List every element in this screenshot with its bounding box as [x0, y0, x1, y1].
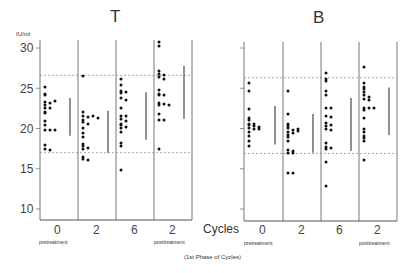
data-point — [292, 172, 295, 175]
data-point — [163, 119, 166, 122]
data-point — [158, 104, 161, 107]
data-point — [325, 107, 328, 110]
data-point — [158, 113, 161, 116]
data-point — [87, 147, 90, 150]
y-tick-30: 30 — [20, 41, 33, 55]
data-point — [248, 131, 251, 134]
data-point — [325, 94, 328, 97]
data-point — [325, 148, 328, 151]
x-tick-left-2b: 2 — [169, 223, 176, 237]
x-tick-right-2a: 2 — [298, 223, 305, 237]
data-point — [82, 148, 85, 151]
data-point — [158, 89, 161, 92]
data-point — [287, 113, 290, 116]
cycles-axis-label: Cycles — [203, 222, 239, 236]
y-tick-10: 10 — [20, 202, 33, 216]
data-point — [54, 129, 57, 132]
data-point — [44, 94, 47, 97]
data-point — [248, 90, 251, 93]
data-point — [325, 90, 328, 93]
data-point — [125, 120, 128, 123]
data-point — [248, 108, 251, 111]
data-point — [363, 128, 366, 131]
data-point — [258, 128, 261, 131]
data-point — [363, 98, 366, 101]
data-point — [330, 107, 333, 110]
data-point — [82, 127, 85, 130]
data-point — [44, 120, 47, 123]
data-point — [325, 185, 328, 188]
data-point — [120, 131, 123, 134]
x-sublabel-right-post: posttreatment — [359, 240, 390, 246]
data-point — [163, 94, 166, 97]
data-point — [82, 132, 85, 135]
data-point — [368, 96, 371, 99]
x-tick-right-0: 0 — [259, 223, 266, 237]
data-point — [363, 159, 366, 162]
data-point — [44, 101, 47, 104]
data-point — [325, 115, 328, 118]
data-point — [363, 109, 366, 112]
data-point — [292, 129, 295, 132]
data-point — [158, 119, 161, 122]
data-point — [158, 76, 161, 79]
data-point — [373, 107, 376, 110]
x-tick-left-2a: 2 — [93, 223, 100, 237]
data-point — [125, 115, 128, 118]
panel-b — [240, 42, 397, 221]
data-point — [363, 117, 366, 120]
data-point — [97, 117, 100, 120]
data-point — [363, 66, 366, 69]
data-point — [44, 107, 47, 110]
data-point — [292, 132, 295, 135]
panel-title-b: B — [313, 8, 324, 28]
data-point — [82, 145, 85, 148]
data-point — [325, 80, 328, 83]
data-point — [125, 91, 128, 94]
data-point — [325, 142, 328, 145]
data-point — [44, 129, 47, 132]
data-point — [44, 86, 47, 89]
data-point — [330, 129, 333, 132]
data-point — [82, 121, 85, 124]
data-point — [325, 161, 328, 164]
data-point — [163, 78, 166, 81]
data-point — [120, 142, 123, 145]
data-point — [158, 45, 161, 48]
footer-caption: (1st Phase of Cycles) — [184, 254, 241, 260]
data-point — [368, 107, 371, 110]
data-point — [287, 127, 290, 130]
data-point — [287, 152, 290, 155]
data-point — [120, 123, 123, 126]
data-point — [82, 136, 85, 139]
data-point — [248, 140, 251, 143]
data-point — [325, 125, 328, 128]
data-point — [125, 126, 128, 129]
data-point — [330, 147, 333, 150]
data-point — [248, 127, 251, 130]
data-point — [168, 104, 171, 107]
data-point — [287, 90, 290, 93]
data-point — [49, 102, 52, 105]
data-point — [158, 70, 161, 73]
data-point — [158, 148, 161, 151]
data-point — [297, 130, 300, 133]
data-point — [120, 107, 123, 110]
y-axis-unit: IU/ml — [16, 31, 30, 37]
data-point — [82, 158, 85, 161]
data-point — [44, 124, 47, 127]
data-point — [287, 140, 290, 143]
y-tick-20: 20 — [20, 122, 33, 136]
data-point — [368, 99, 371, 102]
y-tick-15: 15 — [20, 162, 33, 176]
x-tick-left-0: 0 — [54, 223, 61, 237]
data-point — [158, 94, 161, 97]
x-tick-right-2b: 2 — [374, 223, 381, 237]
data-point — [87, 123, 90, 126]
data-point — [325, 72, 328, 75]
data-point — [248, 119, 251, 122]
data-point — [363, 88, 366, 91]
x-tick-left-6: 6 — [131, 223, 138, 237]
data-point — [363, 137, 366, 140]
data-point — [287, 172, 290, 175]
